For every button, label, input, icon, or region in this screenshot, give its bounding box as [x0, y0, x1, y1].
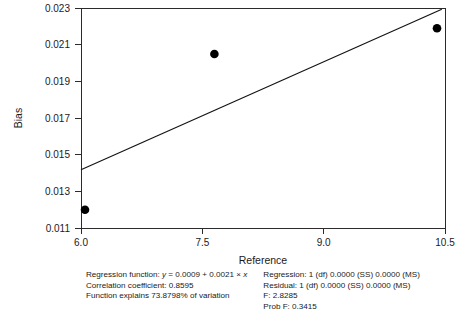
y-axis-title: Bias: [12, 108, 24, 128]
plot-frame: [81, 8, 445, 228]
x-axis-tick-labels: 6.0 7.5 9.0 10.5: [74, 237, 455, 248]
regression-scatter-figure: 0.011 0.013 0.015 0.017 0.019 0.021 0.02…: [0, 0, 472, 332]
data-point-3: [433, 24, 442, 33]
anova-regression-line: Regression: 1 (df) 0.0000 (SS) 0.0000 (M…: [263, 270, 420, 281]
y-axis-tick-labels: 0.011 0.013 0.015 0.017 0.019 0.021 0.02…: [45, 3, 70, 234]
y-tick-label-3: 0.017: [45, 113, 70, 124]
y-tick-label-5: 0.021: [45, 39, 70, 50]
correlation-coefficient-line: Correlation coefficient: 0.8595: [86, 281, 247, 292]
y-tick-label-2: 0.015: [45, 149, 70, 160]
data-points: [81, 24, 442, 214]
equation-x-variable: x: [243, 270, 247, 279]
statistics-caption: Regression function: y = 0.0009 + 0.0021…: [0, 270, 472, 332]
regression-line: [81, 9, 442, 170]
data-point-1: [81, 205, 90, 214]
x-axis-title: Reference: [239, 254, 288, 266]
y-tick-label-1: 0.013: [45, 186, 70, 197]
x-tick-label-1: 7.5: [195, 237, 209, 248]
caption-column-left: Regression function: y = 0.0009 + 0.0021…: [86, 270, 247, 302]
x-axis-ticks: [81, 228, 445, 234]
y-tick-label-0: 0.011: [46, 223, 71, 234]
y-tick-label-6: 0.023: [45, 3, 70, 14]
regression-function-label: Regression function:: [86, 270, 162, 279]
anova-residual-line: Residual: 1 (df) 0.0000 (SS) 0.0000 (MS): [263, 281, 420, 292]
y-tick-label-4: 0.019: [45, 76, 70, 87]
plot-svg: 0.011 0.013 0.015 0.017 0.019 0.021 0.02…: [0, 0, 472, 268]
y-axis-ticks: [75, 8, 81, 228]
equation-body: = 0.0009 + 0.0021 ×: [166, 270, 243, 279]
plot-area: 0.011 0.013 0.015 0.017 0.019 0.021 0.02…: [0, 0, 472, 268]
x-tick-label-0: 6.0: [74, 237, 88, 248]
variation-explained-line: Function explains 73.8798% of variation: [86, 291, 247, 302]
caption-column-right: Regression: 1 (df) 0.0000 (SS) 0.0000 (M…: [263, 270, 420, 312]
data-point-2: [210, 50, 219, 59]
x-tick-label-2: 9.0: [317, 237, 331, 248]
prob-f-line: Prob F: 0.3415: [263, 302, 420, 313]
x-tick-label-3: 10.5: [435, 237, 455, 248]
regression-function-line: Regression function: y = 0.0009 + 0.0021…: [86, 270, 247, 281]
f-statistic-line: F: 2.8285: [263, 291, 420, 302]
